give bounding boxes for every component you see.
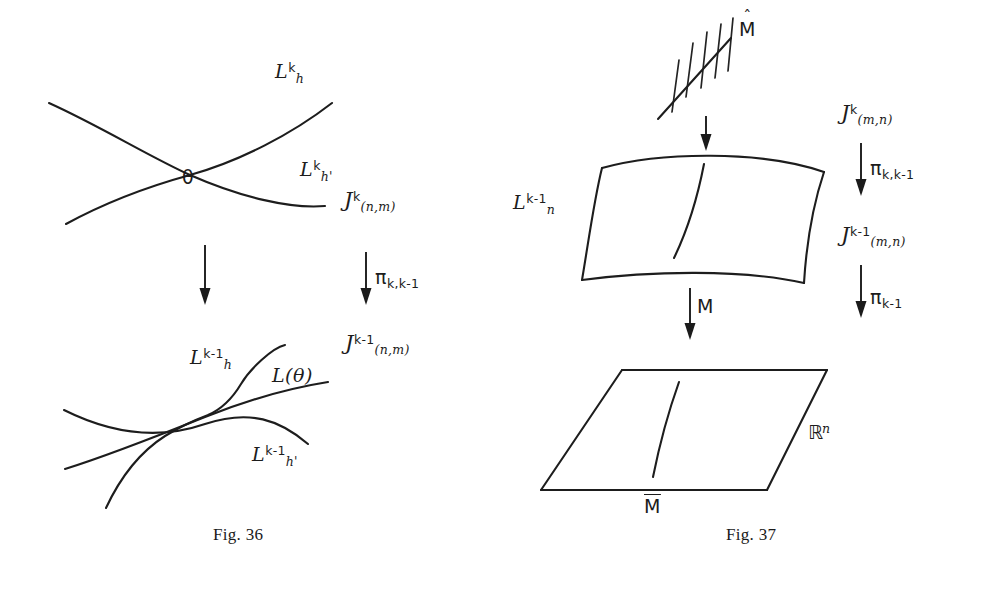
- fig37-arrow-pi-k-minus-1: [856, 265, 867, 318]
- label-r-n: ℝn: [808, 423, 830, 442]
- label-L-h-k: Lkh: [275, 62, 304, 85]
- plane-interior-curve: [653, 382, 679, 477]
- fig37-arrow-map-m: [685, 288, 696, 340]
- label-L-n-k-minus-1: Lk-1n: [513, 193, 555, 216]
- label-L-h-k-minus-1: Lk-1h: [190, 348, 232, 371]
- fig37-arrow-inclusion: [701, 116, 712, 151]
- figure-board: Lkh Lkh' θ Jk(n,m) πk,k-1 Jk-1(n,m) Lk-1…: [0, 0, 987, 589]
- hatch-line-2: [686, 43, 693, 97]
- fig36-arrow-pi: [361, 252, 372, 305]
- caption-fig-37: Fig. 37: [726, 525, 776, 545]
- patch-edge-right: [804, 172, 824, 283]
- label-theta-point: θ: [182, 168, 194, 187]
- caption-fig-36: Fig. 36: [213, 525, 263, 545]
- patch-edge-top: [602, 156, 824, 172]
- label-L-h-prime-k: Lkh': [300, 160, 333, 183]
- label-jet-space-k-minus-1-fig36: Jk-1(n,m): [345, 333, 410, 357]
- patch-edge-bottom: [582, 273, 804, 283]
- label-pi-k-fig37: πk,k-1: [870, 159, 914, 182]
- patch-edge-left: [582, 168, 602, 280]
- label-jet-space-k-fig37: Jk(m,n): [841, 103, 893, 127]
- hatch-line-5: [728, 18, 733, 71]
- fig36-top-curves: [49, 103, 332, 224]
- fig37-arrow-pi-k: [856, 143, 867, 196]
- curve-L-h-prime-k-minus-1: [64, 410, 308, 444]
- fig37-plane-parallelogram: [541, 370, 827, 490]
- label-m-hat: ˆ M: [739, 20, 756, 39]
- label-jet-space-k-fig36: Jk(n,m): [344, 190, 396, 214]
- label-L-theta: L(θ): [272, 366, 313, 385]
- label-m-bar: M: [644, 497, 661, 516]
- label-pi-k-fig36: πk,k-1: [375, 268, 419, 291]
- hatch-line-3: [701, 32, 707, 88]
- label-L-h-prime-k-minus-1: Lk-1h': [252, 445, 298, 468]
- line-m-hat: [658, 38, 731, 119]
- plane-edge-left: [541, 370, 622, 490]
- label-map-m: M: [697, 297, 714, 316]
- fig36-arrow-unlabeled: [200, 245, 211, 305]
- patch-interior-curve: [674, 164, 704, 258]
- hat-accent-icon: ˆ: [743, 9, 752, 25]
- fig37-hatching: [658, 18, 733, 119]
- hatch-line-1: [672, 60, 679, 112]
- figure-vector-layer: [0, 0, 987, 589]
- curve-L-h-prime-k: [49, 103, 325, 206]
- fig37-surface-patch: [582, 156, 824, 283]
- label-jet-space-k-minus-1-fig37: Jk-1(m,n): [841, 225, 906, 249]
- label-pi-k-minus-1-fig37: πk-1: [870, 288, 903, 311]
